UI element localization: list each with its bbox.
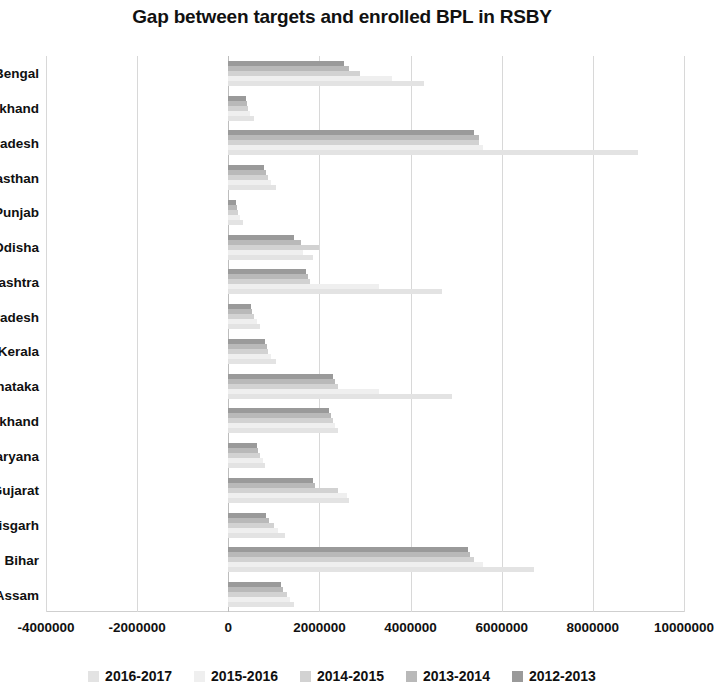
bar [228, 458, 263, 463]
legend-item[interactable]: 2014-2015 [300, 668, 384, 684]
bar [228, 255, 312, 260]
bar [228, 240, 301, 245]
bar [228, 111, 250, 116]
category-row: Odisha [46, 230, 684, 265]
bar [228, 592, 286, 597]
gridline [684, 56, 685, 612]
bar-group [46, 334, 684, 369]
bar [228, 413, 331, 418]
category-row: Uttarakhand [46, 91, 684, 126]
bar [228, 478, 312, 483]
bar [228, 66, 349, 71]
bar [228, 453, 260, 458]
bar-group [46, 265, 684, 300]
bar [228, 71, 360, 76]
x-axis-tick-label: 10000000 [654, 620, 714, 635]
y-axis-tick-label: Kerala [0, 345, 39, 359]
bar [228, 562, 483, 567]
legend-item[interactable]: 2016-2017 [88, 668, 172, 684]
bar [228, 101, 246, 106]
bar [228, 284, 378, 289]
bar [228, 582, 280, 587]
bar [228, 269, 305, 274]
category-row: Rajasthan [46, 160, 684, 195]
legend-label: 2015-2016 [211, 668, 278, 684]
y-axis-tick-label: Rajasthan [0, 172, 39, 186]
bar [228, 165, 264, 170]
category-row: Assam [46, 577, 684, 612]
bar [228, 309, 252, 314]
bar [228, 106, 248, 111]
bar [228, 289, 442, 294]
chart-legend: 2016-20172015-20162014-20152013-20142012… [0, 668, 684, 684]
y-axis-tick-label: Assam [0, 589, 39, 603]
bar [228, 557, 474, 562]
y-axis-tick-label: Karnataka [0, 380, 39, 394]
bar-group [46, 438, 684, 473]
legend-swatch-icon [300, 671, 311, 682]
bar [228, 379, 335, 384]
category-row: West Bengal [46, 56, 684, 91]
legend-swatch-icon [88, 671, 99, 682]
x-axis-tick-label: 0 [225, 620, 233, 635]
y-axis-tick-label: Bihar [4, 554, 39, 568]
category-row: Uttar Pradesh [46, 126, 684, 161]
x-axis-tick-label: 6000000 [475, 620, 528, 635]
chart-title: Gap between targets and enrolled BPL in … [0, 6, 684, 28]
bar [228, 314, 254, 319]
bar [228, 428, 337, 433]
category-row: Punjab [46, 195, 684, 230]
legend-swatch-icon [406, 671, 417, 682]
y-axis-tick-label: Uttar Pradesh [0, 137, 39, 151]
bar [228, 170, 265, 175]
x-axis-tick-label: 4000000 [384, 620, 437, 635]
bar [228, 384, 337, 389]
legend-label: 2014-2015 [317, 668, 384, 684]
bar [228, 498, 349, 503]
bar [228, 587, 283, 592]
bar [228, 76, 392, 81]
category-row: Haryana [46, 438, 684, 473]
bar [228, 513, 265, 518]
bar [228, 418, 333, 423]
bar [228, 394, 451, 399]
x-axis-tick-label: 8000000 [567, 620, 620, 635]
bar [228, 220, 243, 225]
bar [228, 602, 294, 607]
bar [228, 443, 256, 448]
bar-group [46, 473, 684, 508]
bar [228, 81, 424, 86]
bar [228, 528, 278, 533]
bar [228, 185, 276, 190]
bar [228, 567, 533, 572]
y-axis-tick-label: Chhattisgarh [0, 519, 39, 533]
bar [228, 180, 270, 185]
bar [228, 96, 245, 101]
bar [228, 483, 315, 488]
bar [228, 344, 266, 349]
bar-group [46, 195, 684, 230]
bar [228, 235, 294, 240]
bar-group [46, 543, 684, 578]
bar [228, 150, 638, 155]
x-axis-tick-label: -4000000 [17, 620, 74, 635]
bar-group [46, 404, 684, 439]
x-axis-tick-label: -2000000 [109, 620, 166, 635]
bar [228, 200, 236, 205]
bar-group [46, 230, 684, 265]
bar [228, 408, 328, 413]
x-axis: -4000000-2000000020000004000000600000080… [46, 620, 684, 642]
bar [228, 175, 268, 180]
bar [228, 116, 254, 121]
legend-item[interactable]: 2015-2016 [194, 668, 278, 684]
bar [228, 250, 303, 255]
bar [228, 245, 319, 250]
legend-item[interactable]: 2012-2013 [512, 668, 596, 684]
bar-group [46, 160, 684, 195]
y-axis-tick-label: West Bengal [0, 67, 39, 81]
category-row: Kerala [46, 334, 684, 369]
bar [228, 597, 290, 602]
bar [228, 135, 479, 140]
legend-item[interactable]: 2013-2014 [406, 668, 490, 684]
legend-label: 2016-2017 [105, 668, 172, 684]
